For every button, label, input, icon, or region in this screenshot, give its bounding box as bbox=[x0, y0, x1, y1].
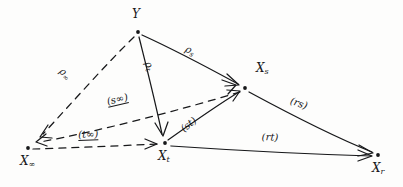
edge-rho-inf bbox=[40, 37, 134, 138]
edge-r-t bbox=[171, 146, 372, 161]
node-dot-Xr[interactable] bbox=[376, 153, 380, 157]
edge-r-t-line bbox=[171, 146, 371, 156]
edge-rho-t-line bbox=[139, 37, 162, 134]
edge-label-t-inf: (t∞) bbox=[78, 129, 98, 140]
edge-s-t bbox=[168, 80, 240, 140]
node-dot-Y[interactable] bbox=[136, 30, 140, 34]
edge-label-r-t: (rt) bbox=[261, 132, 278, 143]
edge-rho-s-line bbox=[142, 35, 238, 84]
edge-rho-t bbox=[139, 37, 168, 136]
edge-s-inf-line bbox=[40, 92, 240, 142]
node-dot-Xinf[interactable] bbox=[26, 146, 30, 150]
node-dot-Xt[interactable] bbox=[163, 141, 167, 145]
node-label-Xinf: X∞ bbox=[20, 155, 35, 169]
edge-s-t-line bbox=[168, 92, 239, 140]
diagram-svg bbox=[0, 0, 403, 187]
edge-rho-s bbox=[142, 35, 239, 86]
edge-r-s-line bbox=[249, 92, 372, 152]
node-dot-Xs[interactable] bbox=[243, 86, 247, 90]
edge-r-s bbox=[249, 92, 373, 156]
node-label-Xr: Xr bbox=[372, 162, 384, 176]
edge-t-inf-line bbox=[33, 144, 157, 149]
diagram-canvas: Y Xs Xt Xr X∞ ρs ρt ρ∞ (s∞) (t∞) (st) (r… bbox=[0, 0, 403, 187]
node-label-Xs: Xs bbox=[256, 62, 269, 76]
node-label-Y: Y bbox=[132, 8, 140, 22]
edge-t-inf bbox=[33, 139, 157, 149]
node-label-Xt: Xt bbox=[158, 150, 170, 164]
edge-s-inf bbox=[36, 92, 240, 146]
edge-rho-inf-line bbox=[43, 37, 134, 134]
